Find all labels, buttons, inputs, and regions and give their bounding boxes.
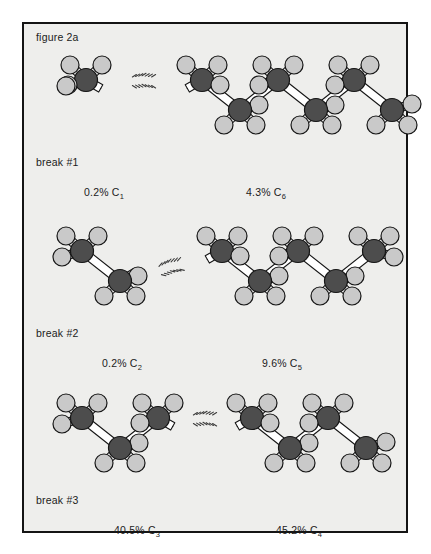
yield-label-right-2: 9.6% C5 <box>262 357 302 372</box>
fragment-index-right-2: 5 <box>298 363 302 372</box>
yield-label-right-3: 45.2% C4 <box>276 524 322 539</box>
panel-break-3: break #3 40.5% C3 45.2% C4 <box>24 376 406 546</box>
fragment-index-left-3: 3 <box>156 530 160 539</box>
break-label-2: break #2 <box>36 327 78 339</box>
fragment-symbol-right-2: C <box>290 357 298 369</box>
yield-value-left-1: 0.2% <box>84 186 109 198</box>
break-label-1: break #1 <box>36 156 78 168</box>
fragment-symbol-left-2: C <box>130 357 138 369</box>
yield-value-left-3: 40.5% <box>114 524 145 536</box>
yield-value-right-3: 45.2% <box>276 524 307 536</box>
figure-canvas: figure 2a break #1 0.2% C1 4.3% C6 break… <box>0 0 431 554</box>
yield-label-right-1: 4.3% C6 <box>246 186 286 201</box>
fragment-symbol-right-3: C <box>310 524 318 536</box>
figure-frame: figure 2a break #1 0.2% C1 4.3% C6 break… <box>22 22 408 533</box>
molecule-diagram-break-1 <box>24 38 406 188</box>
fragment-index-right-1: 6 <box>282 192 286 201</box>
fragment-symbol-right-1: C <box>274 186 282 198</box>
yield-value-left-2: 0.2% <box>102 357 127 369</box>
yield-label-left-3: 40.5% C3 <box>114 524 160 539</box>
fragment-symbol-left-1: C <box>112 186 120 198</box>
panel-break-1: break #1 0.2% C1 4.3% C6 <box>24 38 406 208</box>
fragment-index-right-3: 4 <box>318 530 322 539</box>
yield-value-right-2: 9.6% <box>262 357 287 369</box>
yield-label-left-1: 0.2% C1 <box>84 186 124 201</box>
panel-break-2: break #2 0.2% C2 9.6% C5 <box>24 209 406 379</box>
fragment-index-left-1: 1 <box>120 192 124 201</box>
yield-label-left-2: 0.2% C2 <box>102 357 142 372</box>
fragment-index-left-2: 2 <box>138 363 142 372</box>
molecule-diagram-break-2 <box>24 209 406 359</box>
fragment-symbol-left-3: C <box>148 524 156 536</box>
break-label-3: break #3 <box>36 494 78 506</box>
yield-value-right-1: 4.3% <box>246 186 271 198</box>
molecule-diagram-break-3 <box>24 376 406 526</box>
